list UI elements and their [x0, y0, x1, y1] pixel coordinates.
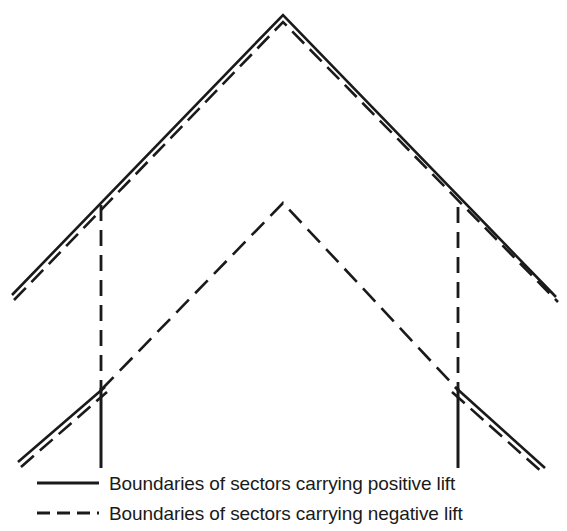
diagram-canvas [0, 0, 567, 531]
legend: Boundaries of sectors carrying positive … [0, 466, 567, 531]
legend-label-positive-lift: Boundaries of sectors carrying positive … [109, 473, 455, 494]
legend-item-negative-lift: Boundaries of sectors carrying negative … [36, 498, 463, 528]
dashed-line-sample [36, 506, 100, 520]
legend-item-positive-lift: Boundaries of sectors carrying positive … [36, 468, 455, 498]
diagram-background [0, 0, 567, 531]
solid-line-sample [36, 476, 100, 490]
legend-label-negative-lift: Boundaries of sectors carrying negative … [109, 503, 463, 524]
lift-sector-diagram: Boundaries of sectors carrying positive … [0, 0, 567, 531]
